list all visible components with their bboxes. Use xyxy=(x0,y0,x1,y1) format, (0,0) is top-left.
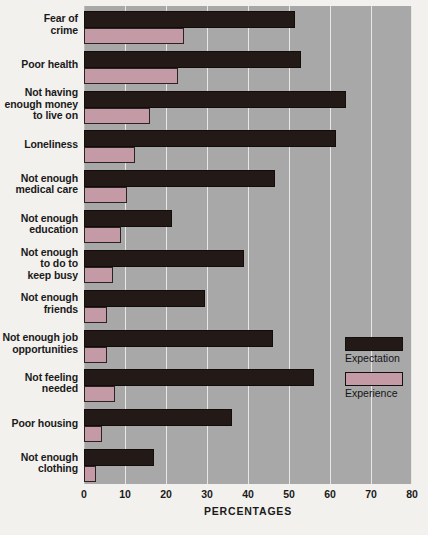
bar-experience xyxy=(84,307,107,323)
bar-experience xyxy=(84,28,184,44)
bar-row xyxy=(84,444,412,484)
bar-expectation xyxy=(84,210,172,227)
category-label-line: Poor health xyxy=(0,59,78,71)
bar-expectation xyxy=(84,369,314,386)
x-tick-label: 20 xyxy=(160,488,172,500)
category-label-line: Poor housing xyxy=(0,418,78,430)
bar-experience xyxy=(84,108,150,124)
x-tick-label: 70 xyxy=(365,488,377,500)
chart-legend: Expectation Experience xyxy=(345,337,417,407)
category-label: Not enoughmedical care xyxy=(0,173,78,196)
bar-experience xyxy=(84,187,127,203)
bar-row xyxy=(84,165,412,205)
category-label-line: medical care xyxy=(0,184,78,196)
bar-row xyxy=(84,6,412,46)
category-label: Not enough jobopportunities xyxy=(0,332,78,355)
bar-expectation xyxy=(84,409,232,426)
bar-row xyxy=(84,404,412,444)
bar-expectation xyxy=(84,449,154,466)
bar-expectation xyxy=(84,250,244,267)
bar-experience xyxy=(84,227,121,243)
legend-swatch-expectation-icon xyxy=(345,337,403,351)
legend-swatch-experience-icon xyxy=(345,372,403,386)
category-label-line: opportunities xyxy=(0,344,78,356)
category-axis-labels: Fear ofcrimePoor healthNot havingenough … xyxy=(0,6,78,484)
category-label-line: keep busy xyxy=(0,270,78,282)
bar-experience xyxy=(84,386,115,402)
x-tick-label: 30 xyxy=(201,488,213,500)
x-tick-label: 80 xyxy=(406,488,418,500)
bar-expectation xyxy=(84,91,346,108)
category-label-line: Loneliness xyxy=(0,139,78,151)
category-label-line: to live on xyxy=(0,110,78,122)
legend-label-expectation: Expectation xyxy=(345,352,417,364)
bar-row xyxy=(84,285,412,325)
bar-expectation xyxy=(84,51,301,68)
category-label: Not enoughfriends xyxy=(0,292,78,315)
legend-item-experience: Experience xyxy=(345,372,417,399)
x-tick-label: 50 xyxy=(283,488,295,500)
bar-experience xyxy=(84,466,96,482)
bar-experience xyxy=(84,68,178,84)
bar-expectation xyxy=(84,330,273,347)
category-label-line: Not enough job xyxy=(0,332,78,344)
category-label: Poor health xyxy=(0,59,78,71)
category-label: Not enoughclothing xyxy=(0,452,78,475)
bar-expectation xyxy=(84,11,295,28)
category-label-line: to do to xyxy=(0,258,78,270)
category-label: Poor housing xyxy=(0,418,78,430)
category-label-line: clothing xyxy=(0,463,78,475)
bar-rows xyxy=(84,6,412,484)
x-tick-label: 40 xyxy=(242,488,254,500)
category-label: Loneliness xyxy=(0,139,78,151)
category-label: Not feelingneeded xyxy=(0,372,78,395)
category-label-line: friends xyxy=(0,304,78,316)
category-label-line: crime xyxy=(0,25,78,37)
category-label: Fear ofcrime xyxy=(0,13,78,36)
bar-row xyxy=(84,46,412,86)
bar-row xyxy=(84,86,412,126)
bar-experience xyxy=(84,426,102,442)
x-tick-label: 60 xyxy=(324,488,336,500)
category-label-line: needed xyxy=(0,383,78,395)
bar-row xyxy=(84,205,412,245)
x-axis-ticks: 01020304050607080 xyxy=(84,484,412,506)
category-label: Not enoughto do tokeep busy xyxy=(0,247,78,282)
category-label: Not enougheducation xyxy=(0,213,78,236)
bar-expectation xyxy=(84,290,205,307)
bar-expectation xyxy=(84,130,336,147)
bar-row xyxy=(84,125,412,165)
bar-row xyxy=(84,245,412,285)
category-label-line: education xyxy=(0,224,78,236)
x-tick-label: 10 xyxy=(119,488,131,500)
x-axis-title: PERCENTAGES xyxy=(84,505,412,517)
bar-experience xyxy=(84,147,135,163)
bar-expectation xyxy=(84,170,275,187)
category-label: Not havingenough moneyto live on xyxy=(0,87,78,122)
bar-experience xyxy=(84,267,113,283)
bar-experience xyxy=(84,347,107,363)
x-tick-label: 0 xyxy=(81,488,87,500)
chart-page: Fear ofcrimePoor healthNot havingenough … xyxy=(0,0,428,535)
legend-label-experience: Experience xyxy=(345,387,417,399)
legend-item-expectation: Expectation xyxy=(345,337,417,364)
